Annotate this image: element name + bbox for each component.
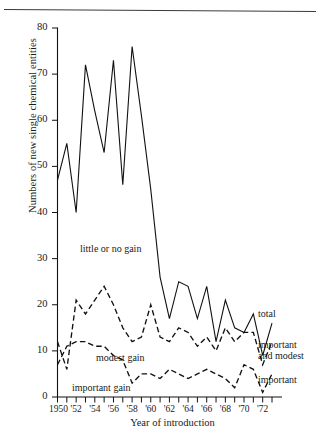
- plot-canvas: [0, 0, 319, 440]
- series-line-total: [58, 46, 273, 355]
- chart-figure: Numbers of new single chemical entities …: [0, 0, 319, 440]
- tick-marks-group: [52, 28, 272, 403]
- data-series-group: [58, 46, 273, 392]
- series-line-important: [58, 342, 273, 393]
